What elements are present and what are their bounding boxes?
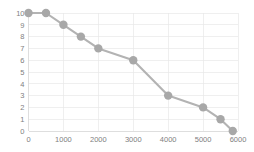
y-tick-label: 2 bbox=[20, 103, 24, 112]
x-tick-label: 3000 bbox=[125, 135, 142, 144]
data-point-marker bbox=[164, 91, 172, 99]
y-tick-label: 6 bbox=[20, 56, 24, 65]
data-point-marker bbox=[24, 9, 32, 17]
y-tick-label: 9 bbox=[20, 21, 24, 30]
y-tick-label: 4 bbox=[20, 80, 24, 89]
y-tick-label: 1 bbox=[20, 115, 24, 124]
y-tick-label: 0 bbox=[20, 127, 24, 136]
y-tick-label: 7 bbox=[20, 44, 24, 53]
data-point-marker bbox=[229, 127, 237, 135]
data-point-marker bbox=[129, 56, 137, 64]
line-chart: 012345678910 0100020003000400050006000 bbox=[0, 0, 254, 152]
chart-canvas: 012345678910 0100020003000400050006000 bbox=[0, 0, 254, 152]
x-axis-tick-labels: 0100020003000400050006000 bbox=[26, 135, 246, 144]
y-tick-label: 3 bbox=[20, 91, 24, 100]
y-tick-label: 5 bbox=[20, 68, 24, 77]
x-tick-label: 6000 bbox=[230, 135, 247, 144]
y-tick-label: 8 bbox=[20, 32, 24, 41]
data-point-marker bbox=[59, 21, 67, 29]
x-tick-label: 1000 bbox=[55, 135, 72, 144]
x-tick-label: 2000 bbox=[90, 135, 107, 144]
data-point-marker bbox=[216, 115, 224, 123]
y-tick-label: 10 bbox=[16, 9, 24, 18]
x-tick-label: 5000 bbox=[195, 135, 212, 144]
x-tick-label: 0 bbox=[26, 135, 30, 144]
data-point-marker bbox=[199, 103, 207, 111]
data-point-marker bbox=[77, 32, 85, 40]
data-point-marker bbox=[42, 9, 50, 17]
x-tick-label: 4000 bbox=[160, 135, 177, 144]
y-axis-tick-labels: 012345678910 bbox=[16, 9, 24, 136]
data-point-marker bbox=[94, 44, 102, 52]
